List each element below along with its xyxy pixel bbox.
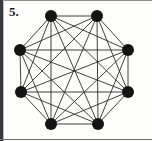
graph-edge bbox=[97, 16, 128, 50]
graph-edge bbox=[20, 16, 51, 50]
complete-graph-k8-diagram bbox=[0, 0, 152, 141]
graph-vertex bbox=[45, 118, 57, 130]
graph-edge bbox=[51, 16, 128, 92]
figure-panel: 5. bbox=[0, 0, 152, 141]
graph-edge bbox=[20, 50, 51, 124]
graph-edge bbox=[20, 50, 98, 124]
graph-edge bbox=[51, 50, 128, 124]
graph-vertex bbox=[14, 44, 26, 56]
graph-edge bbox=[20, 50, 21, 92]
graph-vertex bbox=[45, 10, 57, 22]
graph-edge bbox=[98, 92, 128, 124]
graph-vertex bbox=[92, 118, 104, 130]
graph-edge-layer bbox=[20, 16, 128, 124]
graph-edge bbox=[97, 16, 98, 124]
graph-vertex bbox=[122, 86, 134, 98]
graph-vertex bbox=[91, 10, 103, 22]
graph-vertex bbox=[15, 86, 27, 98]
graph-vertex bbox=[122, 44, 134, 56]
graph-edge bbox=[21, 92, 51, 124]
graph-edge bbox=[21, 16, 51, 92]
graph-edge bbox=[20, 16, 97, 50]
